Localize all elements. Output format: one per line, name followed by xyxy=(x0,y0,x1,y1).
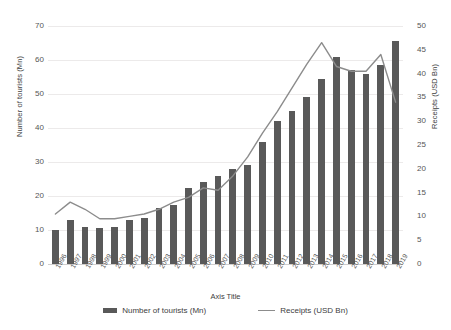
y-axis-right-tick-45: 45 xyxy=(417,46,443,54)
y-axis-left-tick-70: 70 xyxy=(18,22,44,30)
y-axis-left-tick-50: 50 xyxy=(18,90,44,98)
y-axis-right-tick-50: 50 xyxy=(417,22,443,30)
y-axis-right-tick-40: 40 xyxy=(417,70,443,78)
y-axis-right-tick-15: 15 xyxy=(417,189,443,197)
y-axis-right-tick-35: 35 xyxy=(417,93,443,101)
legend-label-tourists: Number of tourists (Mn) xyxy=(122,306,206,315)
y-axis-left-tick-0: 0 xyxy=(18,260,44,268)
chart-container: Number of tourists (Mn) Receipts (USD Bn… xyxy=(0,0,451,330)
y-axis-left-tick-40: 40 xyxy=(18,124,44,132)
y-axis-left-tick-60: 60 xyxy=(18,56,44,64)
y-axis-right-tick-10: 10 xyxy=(417,212,443,220)
y-axis-right-tick-5: 5 xyxy=(417,236,443,244)
legend-item-receipts[interactable]: Receipts (USD Bn) xyxy=(258,306,348,315)
bar-swatch-icon xyxy=(103,308,117,313)
y-axis-right-tick-20: 20 xyxy=(417,165,443,173)
chart-legend: Number of tourists (Mn) Receipts (USD Bn… xyxy=(0,306,451,315)
y-axis-left-tick-10: 10 xyxy=(18,226,44,234)
legend-label-receipts: Receipts (USD Bn) xyxy=(280,306,348,315)
line-series xyxy=(48,26,403,264)
plot-area xyxy=(48,26,403,264)
legend-item-tourists[interactable]: Number of tourists (Mn) xyxy=(103,306,206,315)
y-axis-right-tick-25: 25 xyxy=(417,141,443,149)
y-axis-right-tick-0: 0 xyxy=(417,260,443,268)
y-axis-right-tick-30: 30 xyxy=(417,117,443,125)
y-axis-left-tick-30: 30 xyxy=(18,158,44,166)
y-axis-left-tick-20: 20 xyxy=(18,192,44,200)
x-axis-title: Axis Title xyxy=(0,292,451,301)
line-swatch-icon xyxy=(258,310,275,311)
